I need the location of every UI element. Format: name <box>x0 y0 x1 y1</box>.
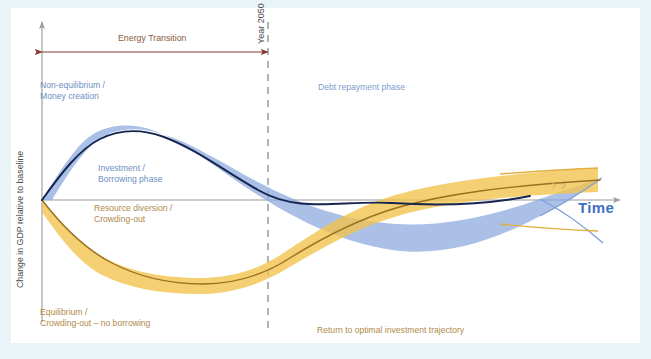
resource-diversion-label: Resource diversion / Crowding-out <box>94 203 172 225</box>
uncertainty-question-label: ? ? <box>551 181 567 193</box>
investment-borrowing-label: Investment / Borrowing phase <box>98 163 163 185</box>
year-2050-label: Year 2050 <box>256 3 268 44</box>
equilibrium-label: Equilibrium / Crowding-out – no borrowin… <box>40 307 150 329</box>
energy-transition-label: Energy Transition <box>118 33 186 44</box>
non-equilibrium-label: Non-equilibrium / Money creation <box>40 80 105 102</box>
y-axis-title: Change in GDP relative to baseline <box>15 151 26 288</box>
debt-repayment-label: Debt repayment phase <box>318 82 405 93</box>
chart-figure: Energy Transition Year 2050 Non-equilibr… <box>0 0 651 359</box>
x-axis-title: Time <box>578 198 614 217</box>
return-optimal-trajectory-label: Return to optimal investment trajectory <box>317 325 464 336</box>
